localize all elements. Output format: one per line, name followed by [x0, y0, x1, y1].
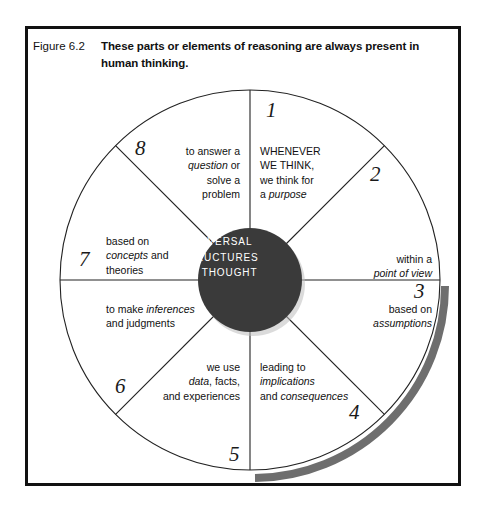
segment-text-4: leading toimplicationsand consequences [260, 360, 380, 403]
segment-number-2: 2 [370, 162, 381, 187]
segment-text-8: to answer aquestion orsolve aproblem [128, 144, 240, 202]
figure-label: Figure 6.2 [33, 38, 101, 55]
segment-number-3: 3 [414, 279, 425, 304]
segment-text-3: based onassumptions [322, 302, 432, 331]
figure-caption: Figure 6.2 These parts or elements of re… [33, 38, 453, 71]
page-footnote [0, 497, 489, 510]
figure-caption-text: These parts or elements of reasoning are… [101, 38, 453, 71]
universal-structures-of-thought-wheel: UNIVERSALSTRUCTURESOF THOUGHT 1 2 3 4 5 … [52, 84, 452, 484]
segment-text-6: to make inferencesand judgments [106, 302, 246, 331]
segment-text-5: we usedata, facts,and experiences [118, 360, 240, 403]
segment-number-4: 4 [349, 400, 360, 425]
segment-number-7: 7 [79, 247, 90, 272]
wheel-diagram-svg [52, 84, 452, 484]
segment-number-1: 1 [266, 98, 277, 123]
segment-text-2: within apoint of view [322, 252, 432, 281]
segment-text-7: based onconcepts andtheories [106, 234, 226, 277]
segment-number-5: 5 [229, 442, 240, 467]
segment-text-1: WHENEVERWE THINK,we think fora purpose [260, 144, 370, 202]
